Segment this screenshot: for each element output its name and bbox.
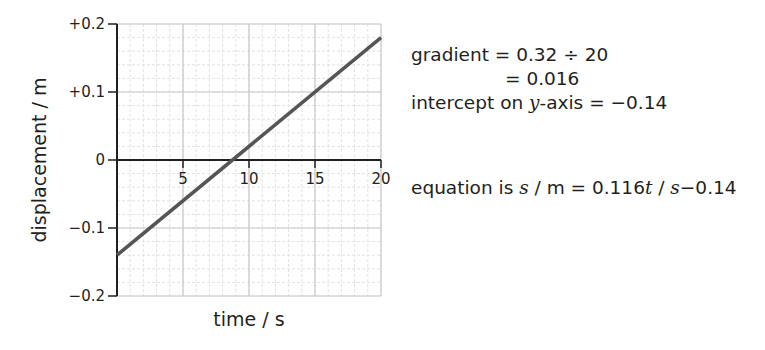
gradient-result: = 0.016 — [505, 68, 579, 89]
x-tick-label: 5 — [178, 170, 188, 188]
intercept-line: intercept on y-axis = −0.14 — [411, 94, 667, 113]
displacement-time-chart: +0.2+0.10−0.1−0.25101520 time / s displa… — [0, 0, 400, 350]
intercept-variable: y — [529, 92, 539, 113]
x-tick-label: 15 — [305, 170, 324, 188]
intercept-prefix: intercept on — [411, 92, 529, 113]
gradient-text: gradient = 0.32 ÷ 20 — [411, 44, 608, 65]
y-tick-label: 0 — [95, 151, 105, 169]
x-tick-label: 10 — [239, 170, 258, 188]
equation-slash: / — [652, 177, 670, 198]
equation-s: s — [519, 177, 529, 198]
equation-mid: / m = 0.116 — [529, 177, 645, 198]
equation-end: −0.14 — [680, 177, 737, 198]
equation-line: equation is s / m = 0.116t / s−0.14 — [411, 179, 737, 198]
y-tick-label: −0.1 — [69, 219, 105, 237]
equation-prefix: equation is — [411, 177, 519, 198]
y-tick-label: −0.2 — [69, 287, 105, 305]
gradient-result-line: = 0.016 — [505, 70, 579, 89]
y-tick-label: +0.2 — [69, 15, 105, 33]
equation-s2: s — [670, 177, 680, 198]
x-axis-title: time / s — [213, 308, 284, 330]
y-tick-label: +0.1 — [69, 83, 105, 101]
intercept-suffix: -axis = −0.14 — [540, 92, 668, 113]
x-tick-label: 20 — [371, 170, 390, 188]
gradient-line: gradient = 0.32 ÷ 20 — [411, 46, 608, 65]
y-axis-title: displacement / m — [28, 77, 50, 242]
